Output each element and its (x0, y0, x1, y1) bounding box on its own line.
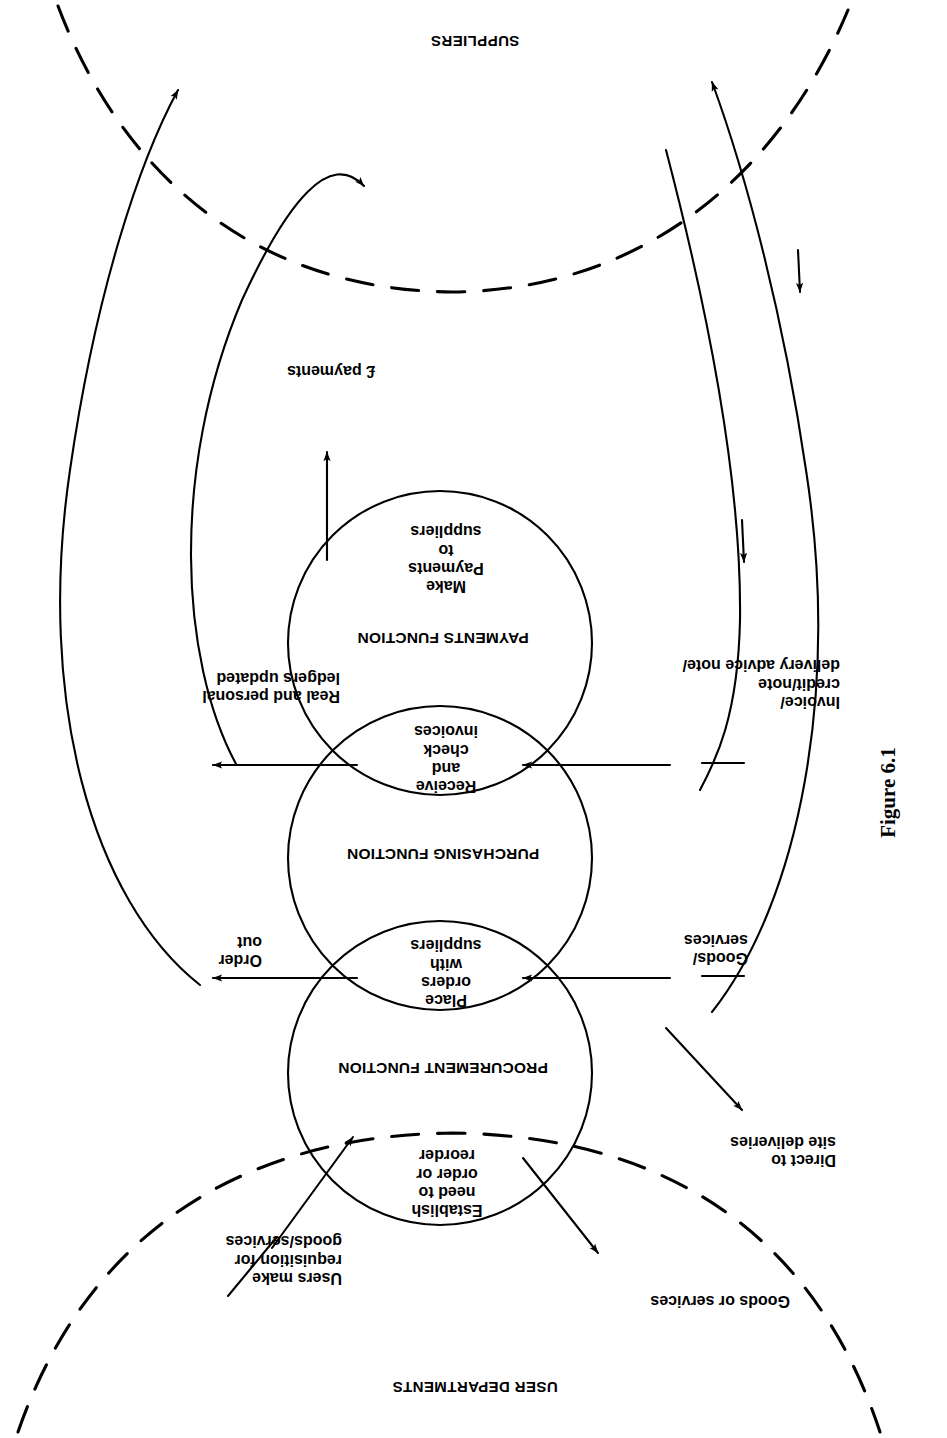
flow-label-users-requisition: Users make requisition for goods/service… (152, 1232, 342, 1287)
process-label-establish-need: Establish need to order or reorder (372, 1146, 522, 1219)
process-label-place-orders: Place orders with suppliers (376, 936, 516, 1009)
function-label-purchasing: PURCHASING FUNCTION (305, 846, 581, 863)
flow-label-order-out: Order out (152, 932, 262, 969)
flow-label-direct-to-site: Direct to site deliveries (656, 1132, 836, 1169)
flow-label-ledgers-updated: Real and personal ledgers updated (150, 668, 340, 705)
figure-canvas: SUPPLIERS USER DEPARTMENTS PAYMENTS FUNC… (0, 0, 947, 1438)
order-out-curve (60, 90, 200, 985)
boundary-label-suppliers: SUPPLIERS (330, 32, 620, 49)
right-curve-arrowhead-upper (798, 250, 800, 292)
flow-label-goods-or-services: Goods or services (600, 1292, 790, 1310)
flow-label-goods-services-in: Goods/ services (628, 930, 748, 967)
right-curve-arrowhead-lower (742, 520, 744, 562)
direct-to-site-arrow (666, 1028, 742, 1110)
process-label-receive-check-invoices: Receive and check invoices (376, 722, 516, 795)
process-diagram-graphics (0, 0, 947, 1438)
figure-caption: Figure 6.1 (876, 733, 901, 853)
flow-label-invoice-in: Invoice/ credit/note delivery advice not… (610, 656, 840, 711)
function-label-payments: PAYMENTS FUNCTION (312, 630, 574, 647)
goods-services-supply-curve (712, 82, 818, 1012)
boundary-label-user-departments: USER DEPARTMENTS (300, 1378, 650, 1395)
flow-label-payments-out: £ payments (266, 362, 396, 380)
goods-or-services-arrow (523, 1158, 598, 1253)
function-label-procurement: PROCUREMENT FUNCTION (298, 1060, 588, 1077)
process-label-make-payments: Make Payments to suppliers (372, 522, 520, 595)
